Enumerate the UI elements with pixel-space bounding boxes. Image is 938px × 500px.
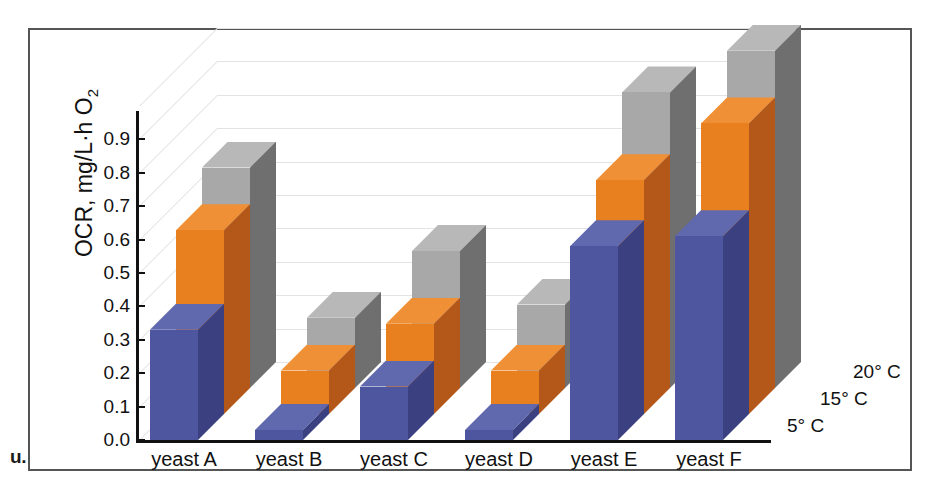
bar-side-face bbox=[775, 25, 801, 388]
y-axis-tick bbox=[136, 205, 145, 207]
y-axis-tick-label: 0.2 bbox=[78, 363, 130, 382]
y-axis-title: OCR, mg/L·h O2 bbox=[71, 33, 97, 313]
y-axis-tick-label: 0.1 bbox=[78, 397, 130, 416]
bar-side-face bbox=[749, 97, 775, 414]
gridline bbox=[217, 61, 779, 62]
depth-gridline bbox=[139, 28, 218, 107]
bar-front-face bbox=[570, 246, 618, 440]
y-axis-tick bbox=[136, 406, 145, 408]
bar-side-face bbox=[224, 204, 250, 414]
bar-front-face bbox=[465, 430, 513, 440]
y-axis-tick bbox=[136, 339, 145, 341]
bar-side-face bbox=[723, 210, 749, 440]
bar-yeast-C-5c bbox=[360, 361, 434, 440]
bar-yeast-E-5c bbox=[570, 220, 644, 440]
chart-plot-area: 0.00.10.20.30.40.50.60.70.80.9 OCR, mg/L… bbox=[30, 30, 914, 473]
category-label-yeast-D: yeast D bbox=[451, 448, 547, 471]
bar-yeast-A-5c bbox=[150, 304, 224, 440]
bar-side-face bbox=[644, 154, 670, 414]
bar-front-face bbox=[255, 430, 303, 440]
y-axis-title-subscript: 2 bbox=[84, 89, 101, 97]
bar-yeast-F-5c bbox=[675, 210, 749, 440]
legend-label-20c: 20° C bbox=[853, 361, 901, 383]
category-label-yeast-B: yeast B bbox=[241, 448, 337, 471]
depth-gridline bbox=[139, 61, 218, 140]
y-axis-tick-label: 0.0 bbox=[78, 430, 130, 449]
bar-yeast-D-5c bbox=[465, 404, 539, 440]
y-axis-tick bbox=[136, 138, 145, 140]
category-label-yeast-A: yeast A bbox=[136, 448, 232, 471]
bar-front-face bbox=[150, 330, 198, 440]
figure-frame: 0.00.10.20.30.40.50.60.70.80.9 OCR, mg/L… bbox=[28, 28, 912, 471]
y-axis-tick-label: 0.3 bbox=[78, 330, 130, 349]
category-label-yeast-E: yeast E bbox=[556, 448, 652, 471]
caption-fragment: u. bbox=[0, 443, 26, 471]
x-axis-line bbox=[136, 440, 771, 443]
y-axis-tick bbox=[136, 272, 145, 274]
y-axis-title-text: OCR, mg/L·h O bbox=[71, 97, 97, 257]
y-axis-line bbox=[136, 111, 139, 441]
bar-side-face bbox=[250, 142, 276, 388]
y-axis-tick bbox=[136, 172, 145, 174]
bar-front-face bbox=[675, 236, 723, 440]
y-axis-tick bbox=[136, 305, 145, 307]
y-axis-tick bbox=[136, 372, 145, 374]
category-label-yeast-F: yeast F bbox=[661, 448, 757, 471]
gridline bbox=[217, 28, 779, 29]
y-axis-tick bbox=[136, 239, 145, 241]
category-label-yeast-C: yeast C bbox=[346, 448, 442, 471]
bar-yeast-B-5c bbox=[255, 404, 329, 440]
legend-label-15c: 15° C bbox=[820, 388, 868, 410]
legend-label-5c: 5° C bbox=[787, 415, 824, 437]
bar-side-face bbox=[460, 225, 486, 388]
bar-front-face bbox=[360, 387, 408, 440]
bar-side-face bbox=[618, 220, 644, 440]
